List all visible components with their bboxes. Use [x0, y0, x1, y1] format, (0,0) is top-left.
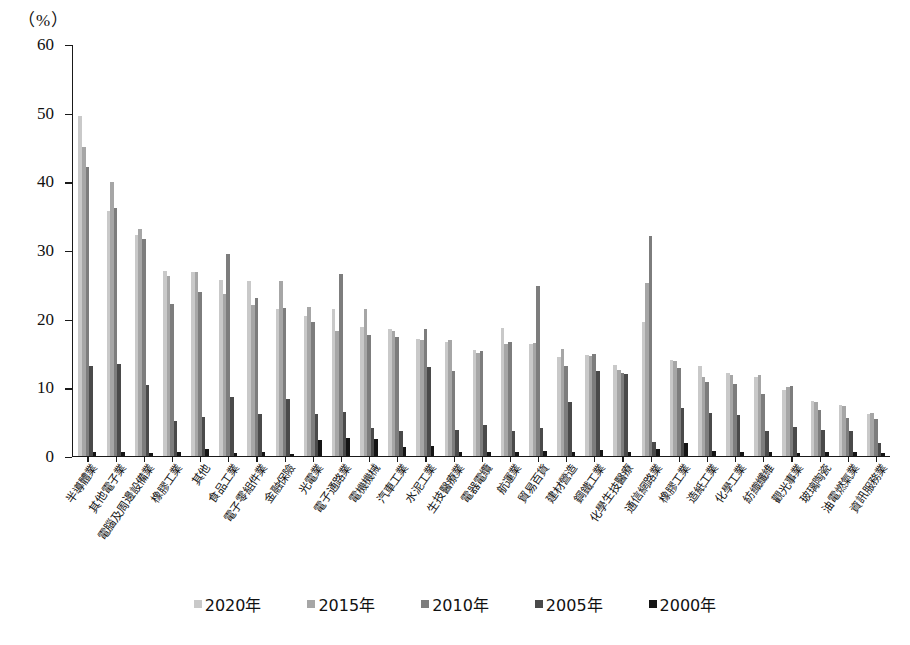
bar-group	[862, 45, 890, 456]
category-label-cell: 光電業	[299, 461, 327, 571]
bar-group	[608, 45, 636, 456]
bar	[600, 450, 604, 455]
y-tick: 60	[65, 45, 72, 46]
bar	[825, 452, 829, 455]
bar-group	[834, 45, 862, 456]
y-tick-label: 10	[37, 380, 54, 397]
y-tick-label: 20	[37, 311, 54, 328]
bar	[93, 452, 97, 456]
bar-group	[327, 45, 355, 456]
bar	[346, 438, 350, 455]
y-tick-label: 40	[37, 174, 54, 191]
chart-legend: 2020年2015年2010年2005年2000年	[0, 592, 910, 616]
bar	[374, 439, 378, 455]
y-tick-label: 60	[37, 36, 54, 53]
category-label-cell: 化學生技醫療	[609, 461, 637, 571]
bar	[89, 366, 93, 455]
bar-group	[158, 45, 186, 456]
bar-group	[186, 45, 214, 456]
bar	[177, 452, 181, 455]
bar	[793, 427, 797, 456]
category-label-cell: 造紙工業	[694, 461, 722, 571]
bar	[709, 413, 713, 456]
category-label-cell: 電子通路業	[327, 461, 355, 571]
legend-label: 2000年	[660, 592, 717, 616]
category-label-cell: 通信網路業	[637, 461, 665, 571]
bar	[230, 397, 234, 456]
bar	[568, 402, 572, 456]
y-tick: 10	[65, 388, 72, 389]
category-labels: 半導體業其他電子業電腦及周邊設備業橡膠工業其他食品工業電子零組件業金融保險光電業…	[73, 461, 891, 571]
bar	[596, 371, 600, 455]
bar	[258, 414, 262, 455]
y-tick: 30	[65, 251, 72, 252]
bar	[543, 451, 547, 456]
category-label-cell: 紡織纖維	[750, 461, 778, 571]
bar	[483, 425, 487, 456]
category-label-cell: 橡膠工業	[158, 461, 186, 571]
category-label-cell: 觀光事業	[778, 461, 806, 571]
y-tick: 20	[65, 320, 72, 321]
bar	[769, 452, 773, 455]
category-label-cell: 航運業	[496, 461, 524, 571]
bar-group	[73, 45, 101, 456]
bar	[117, 364, 121, 455]
legend-item[interactable]: 2020年	[194, 592, 262, 616]
bar	[234, 453, 238, 456]
legend-swatch-icon	[535, 600, 543, 608]
category-label-cell: 電腦及周邊設備業	[130, 461, 158, 571]
y-tick: 40	[65, 182, 72, 183]
category-label-cell: 電機機械	[355, 461, 383, 571]
category-label-cell: 半導體業	[73, 461, 101, 571]
bar	[853, 452, 857, 455]
bar	[431, 446, 435, 456]
bar	[881, 453, 885, 456]
legend-item[interactable]: 2000年	[649, 592, 717, 616]
bar-group	[242, 45, 270, 456]
category-label-cell: 化學工業	[722, 461, 750, 571]
bar	[205, 449, 209, 456]
category-label-cell: 貿易百貨	[525, 461, 553, 571]
bar-group	[665, 45, 693, 456]
bar	[286, 399, 290, 455]
legend-item[interactable]: 2005年	[535, 592, 603, 616]
legend-swatch-icon	[421, 600, 429, 608]
category-label-cell: 玻璃陶瓷	[807, 461, 835, 571]
y-tick-label: 50	[37, 105, 54, 122]
bar-group	[721, 45, 749, 456]
bar-group	[102, 45, 130, 456]
category-label-cell: 建材營造	[553, 461, 581, 571]
bar-group	[411, 45, 439, 456]
bar	[712, 451, 716, 456]
category-label-cell: 油電燃氣業	[835, 461, 863, 571]
legend-item[interactable]: 2015年	[307, 592, 375, 616]
category-label-cell: 電子零組件業	[243, 461, 271, 571]
chart-page: （%） 0102030405060 半導體業其他電子業電腦及周邊設備業橡膠工業其…	[0, 0, 910, 645]
bar	[628, 452, 632, 455]
bar-group	[524, 45, 552, 456]
bar	[427, 367, 431, 456]
bar-group	[130, 45, 158, 456]
category-label-cell: 電器電纜	[468, 461, 496, 571]
plot-area: 0102030405060	[72, 45, 890, 457]
legend-item[interactable]: 2010年	[421, 592, 489, 616]
bar	[318, 440, 322, 456]
y-axis-unit-label: （%）	[18, 6, 69, 31]
bar-group	[496, 45, 524, 456]
bar-group	[552, 45, 580, 456]
bar-group	[637, 45, 665, 456]
bar	[572, 452, 576, 455]
bar	[459, 452, 463, 455]
legend-swatch-icon	[307, 600, 315, 608]
bar	[515, 452, 519, 455]
bar-group	[270, 45, 298, 456]
y-tick-label: 30	[37, 242, 54, 259]
bar-group	[777, 45, 805, 456]
legend-label: 2015年	[318, 592, 375, 616]
legend-label: 2010年	[432, 592, 489, 616]
bar-group	[439, 45, 467, 456]
legend-swatch-icon	[649, 600, 657, 608]
bar	[262, 452, 266, 455]
legend-label: 2005年	[546, 592, 603, 616]
bar	[649, 236, 653, 456]
